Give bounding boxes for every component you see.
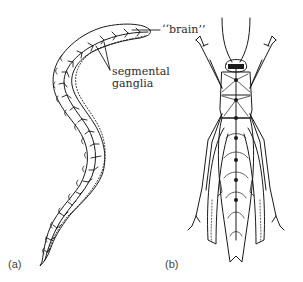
panel-label-a: (a) [8, 258, 21, 270]
worm-drawing [40, 24, 160, 266]
panel-label-b: (b) [165, 258, 178, 270]
insect-drawing [188, 18, 284, 262]
segmental-ganglia-label-line2: ganglia [112, 78, 153, 90]
brain-label: ‘‘brain’’ [162, 24, 205, 36]
nervous-system-illustration [0, 0, 303, 282]
figure-canvas: ‘‘brain’’ segmental ganglia (a) (b) [0, 0, 303, 282]
